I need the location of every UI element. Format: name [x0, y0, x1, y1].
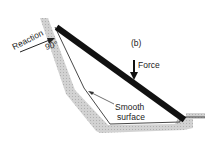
smooth-label: Smooth [115, 102, 145, 112]
force-label: Force [138, 60, 160, 70]
reaction-label: Reaction [10, 28, 45, 52]
panel-label: (b) [131, 38, 142, 48]
surface-label: surface [117, 112, 145, 122]
smooth-surface-pointer [90, 92, 114, 104]
ladder-diagram: Reaction 90° (b) Force Smooth surface [0, 0, 211, 141]
